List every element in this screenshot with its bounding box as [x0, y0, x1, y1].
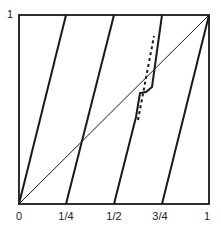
x-tick-0: 0 — [16, 211, 22, 222]
circle-map-diagram: 1 0 1/4 1/2 3/4 1 — [0, 0, 221, 230]
branch-4-line — [162, 15, 209, 204]
diagonal-line — [19, 15, 209, 204]
x-tick-three-quarters: 3/4 — [152, 211, 167, 222]
branch-1-line — [19, 15, 66, 204]
y-axis-top-label: 1 — [7, 9, 13, 20]
branch-3-dashed-line — [138, 36, 154, 120]
x-tick-quarter: 1/4 — [58, 211, 73, 222]
branch-3-perturbed-line — [114, 15, 162, 204]
plot-area — [0, 0, 221, 230]
branch-2-line — [66, 15, 114, 204]
x-tick-half: 1/2 — [106, 211, 121, 222]
x-tick-1: 1 — [204, 211, 210, 222]
